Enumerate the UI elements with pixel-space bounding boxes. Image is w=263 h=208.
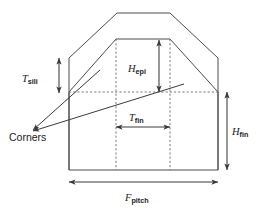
label-h-epi-subscript: epi xyxy=(136,67,146,76)
finfet-cross-section-svg: Tsili Hepi Tfin Hfin Fpitch Corners xyxy=(0,0,263,208)
label-f-pitch-subscript: pitch xyxy=(131,196,148,205)
corners-leader-lower xyxy=(33,84,184,131)
label-corners: Corners xyxy=(9,131,46,143)
label-t-sili: Tsili xyxy=(22,73,38,86)
diagram-root: Tsili Hepi Tfin Hfin Fpitch Corners xyxy=(0,0,263,208)
inner-fin-outline xyxy=(69,39,218,170)
label-t-fin-subscript: fin xyxy=(135,116,144,125)
label-h-fin: Hfin xyxy=(231,126,248,139)
outer-epitaxial-outline xyxy=(69,13,218,170)
label-t-fin: Tfin xyxy=(129,112,144,125)
label-h-epi: Hepi xyxy=(127,63,146,76)
label-f-pitch: Fpitch xyxy=(124,192,149,205)
label-t-sili-subscript: sili xyxy=(28,77,38,86)
label-h-fin-subscript: fin xyxy=(240,130,249,139)
